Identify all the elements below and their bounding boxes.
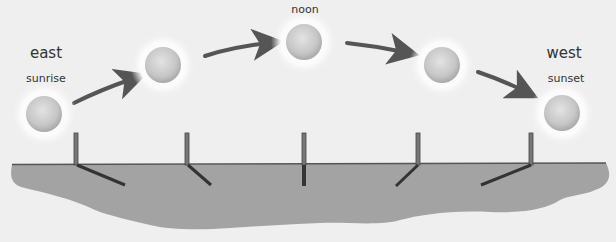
sun-path-diagram <box>0 0 616 242</box>
sun-afternoon <box>409 32 475 98</box>
arrow-afternoon-to-sunset <box>478 72 524 91</box>
label-sunset: sunset <box>548 72 585 85</box>
sun-sunset <box>529 80 595 146</box>
label-west: west <box>546 44 581 62</box>
stick-3 <box>302 133 306 186</box>
ground <box>11 163 609 229</box>
arrow-morning-to-noon <box>205 43 268 56</box>
arrow-sunrise-to-morning <box>74 79 132 103</box>
label-east: east <box>30 44 62 62</box>
sun-morning <box>130 32 196 98</box>
label-sunrise: sunrise <box>26 72 66 85</box>
sun-noon <box>271 9 337 75</box>
arrow-noon-to-afternoon <box>347 43 404 52</box>
shadow-3 <box>302 165 306 186</box>
label-noon: noon <box>291 3 318 16</box>
sun-sunrise <box>11 81 77 147</box>
